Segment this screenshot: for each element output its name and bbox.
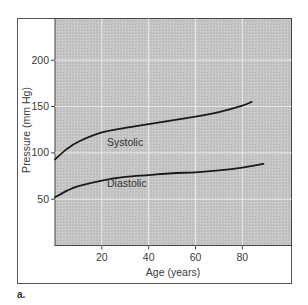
blood-pressure-chart: 50100150200 20406080 Age (years) Pressur… [0,0,308,305]
y-axis-title: Pressure (mm Hg) [20,87,32,173]
x-tick-label: 40 [143,251,155,263]
systolic-label: Systolic [107,136,143,148]
y-tick-label: 200 [31,54,49,66]
x-tick-label: 60 [190,251,202,263]
plot-area [55,19,292,246]
diastolic-label: Diastolic [107,177,147,189]
x-axis-title: Age (years) [146,266,200,278]
x-tick-label: 80 [236,251,248,263]
y-tick-label: 150 [31,100,49,112]
y-tick-label: 50 [37,193,49,205]
y-tick-label: 100 [31,146,49,158]
panel-label: a. [17,289,26,300]
x-tick-label: 20 [96,251,108,263]
